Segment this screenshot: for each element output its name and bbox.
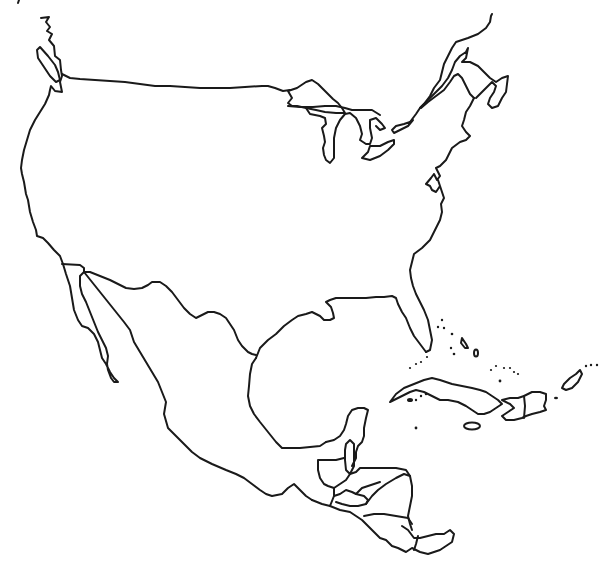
bahamas-dot: [443, 327, 445, 329]
turks-caicos-dot: [509, 367, 511, 369]
haiti-dr-border: [524, 396, 525, 418]
bahamas-dot: [453, 353, 456, 356]
cayman-dot: [415, 399, 417, 401]
us-mexico-border: [62, 264, 256, 355]
yucatan-peninsula: [326, 408, 368, 466]
costa-rica-border: [364, 514, 412, 524]
inagua-dot: [499, 380, 502, 383]
el-salvador: [334, 490, 368, 506]
usa-west-coast-and-border: [21, 17, 63, 264]
canada-us-border: [62, 74, 290, 91]
isle-of-youth: [407, 398, 413, 402]
mexico-pacific-coast: [84, 272, 312, 500]
virgin-islands-dot: [585, 365, 587, 367]
cuba: [390, 378, 502, 414]
caribbean-islet-dot: [415, 427, 418, 430]
cuba-key-dot: [425, 393, 427, 395]
turks-caicos-dot: [503, 367, 505, 369]
turks-caicos-dot: [490, 369, 492, 371]
bahamas-dot: [441, 319, 443, 321]
honduras-nicaragua-border: [366, 474, 412, 530]
cuba-key-dot: [420, 395, 422, 397]
north-america-outline-map: [0, 0, 612, 566]
lake-superior: [288, 80, 345, 113]
map-container: Blank outline map of North America: [0, 0, 612, 566]
turks-caicos-dot: [495, 365, 497, 367]
turks-caicos-dot: [513, 371, 515, 373]
virgin-islands-dot: [596, 364, 598, 366]
florida-gulf-coast: [256, 296, 426, 358]
florida-keys-dot: [409, 367, 411, 369]
belize: [345, 440, 354, 474]
eleuthera-island: [474, 350, 478, 357]
turks-caicos-dot: [517, 373, 519, 375]
puerto-rico: [562, 370, 582, 390]
florida-keys-dot: [415, 363, 417, 365]
vancouver-island: [37, 47, 60, 82]
jamaica: [464, 423, 480, 430]
atlantic-coast: [410, 98, 474, 352]
florida-keys-dot: [420, 361, 422, 363]
florida-keys-dot: [426, 356, 428, 358]
stray-mark: [18, 0, 19, 3]
andros-island: [461, 338, 468, 348]
central-america-pacific-coast: [330, 506, 454, 554]
bahamas-dot: [451, 333, 454, 336]
lake-michigan-huron-shore: [306, 108, 385, 163]
guatemala-border: [312, 458, 344, 506]
bahamas-dot: [450, 347, 452, 349]
mexico-gulf-coast: [248, 358, 326, 448]
mona-island: [554, 397, 558, 399]
virgin-islands-dot: [590, 364, 592, 366]
bahamas-dot: [437, 326, 439, 328]
